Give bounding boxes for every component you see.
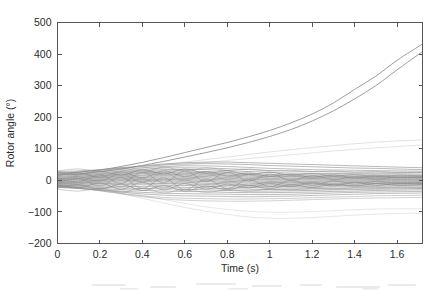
y-tick-label-2: 0 bbox=[46, 174, 52, 186]
y-tick-label-3: 100 bbox=[34, 142, 52, 154]
scan-speckle-9 bbox=[362, 288, 378, 290]
x-tick-label-4: 0.8 bbox=[220, 248, 235, 260]
scan-speckle-0 bbox=[92, 284, 126, 286]
rotor-angle-line-chart: 00.20.40.60.811.21.41.6 −200−10001002003… bbox=[0, 0, 436, 290]
scan-speckle-2 bbox=[196, 283, 236, 285]
y-tick-label-0: −200 bbox=[28, 237, 52, 249]
figure-canvas: 00.20.40.60.811.21.41.6 −200−10001002003… bbox=[0, 0, 436, 290]
scan-speckle-8 bbox=[228, 288, 248, 290]
y-axis-title: Rotor angle (°) bbox=[4, 99, 16, 167]
scan-speckle-3 bbox=[252, 285, 282, 287]
y-tick-label-7: 500 bbox=[34, 16, 52, 28]
x-tick-label-2: 0.4 bbox=[135, 248, 150, 260]
x-tick-label-1: 0.2 bbox=[93, 248, 108, 260]
scan-speckle-7 bbox=[120, 288, 138, 290]
x-tick-label-0: 0 bbox=[55, 248, 61, 260]
y-tick-label-4: 200 bbox=[34, 111, 52, 123]
scan-speckle-5 bbox=[336, 286, 380, 288]
x-tick-labels: 00.20.40.60.811.21.41.6 bbox=[55, 248, 405, 260]
scan-speckle-6 bbox=[388, 284, 416, 286]
y-tick-label-6: 400 bbox=[34, 48, 52, 60]
x-tick-label-7: 1.4 bbox=[347, 248, 362, 260]
scan-speckle-1 bbox=[150, 286, 176, 288]
y-tick-label-5: 300 bbox=[34, 79, 52, 91]
y-tick-label-1: −100 bbox=[28, 206, 52, 218]
x-axis-title: Time (s) bbox=[221, 262, 259, 274]
x-tick-label-3: 0.6 bbox=[178, 248, 193, 260]
x-tick-label-8: 1.6 bbox=[390, 248, 405, 260]
scan-speckle-4 bbox=[300, 284, 322, 286]
x-tick-label-5: 1 bbox=[267, 248, 273, 260]
x-tick-label-6: 1.2 bbox=[305, 248, 320, 260]
